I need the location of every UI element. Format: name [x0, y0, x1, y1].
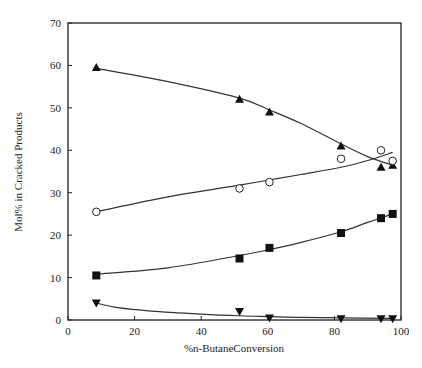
x-tick-label: 80 [329, 325, 341, 337]
open-circle-curve [96, 152, 392, 211]
triangle-down-marker [265, 314, 274, 322]
y-tick-label: 50 [50, 102, 62, 114]
chart: 020406080100010203040506070 %n-ButaneCon… [0, 0, 422, 368]
y-axis-label: Mol% in Cracked Products [12, 112, 24, 231]
square-marker [235, 254, 243, 262]
x-tick-label: 20 [129, 325, 141, 337]
circle-marker [93, 208, 101, 216]
x-tick-label: 60 [262, 325, 274, 337]
circle-marker [337, 155, 345, 163]
x-tick-label: 40 [196, 325, 208, 337]
square-marker [377, 214, 385, 222]
circle-marker [377, 146, 385, 154]
triangle-up-marker [377, 163, 386, 171]
triangle-down-marker [377, 315, 386, 323]
y-tick-label: 60 [50, 59, 62, 71]
square-marker [389, 210, 397, 218]
square-marker [337, 229, 345, 237]
triangle-down-marker [337, 315, 346, 323]
plot-frame [68, 23, 401, 320]
y-tick-label: 40 [50, 144, 62, 156]
y-tick-label: 70 [50, 17, 62, 29]
triangle-up-marker [92, 63, 101, 71]
square-marker [92, 271, 100, 279]
data-markers [92, 63, 397, 323]
fit-curves [96, 68, 392, 318]
filled-triangle-down-curve [96, 303, 392, 318]
filled-square-curve [96, 214, 392, 274]
circle-marker [389, 157, 397, 165]
x-tick-label: 100 [393, 325, 410, 337]
square-marker [265, 244, 273, 252]
x-axis-label: %n-ButaneConversion [184, 342, 285, 354]
filled-triangle-up-curve [96, 68, 392, 165]
triangle-down-marker [388, 315, 397, 323]
circle-marker [236, 185, 244, 193]
y-tick-label: 30 [50, 187, 62, 199]
x-tick-label: 0 [65, 325, 71, 337]
plot-axes: 020406080100010203040506070 [50, 17, 410, 337]
y-tick-label: 0 [56, 314, 62, 326]
circle-marker [266, 178, 274, 186]
triangle-down-marker [235, 308, 244, 316]
y-tick-label: 10 [50, 272, 62, 284]
y-tick-label: 20 [50, 229, 62, 241]
